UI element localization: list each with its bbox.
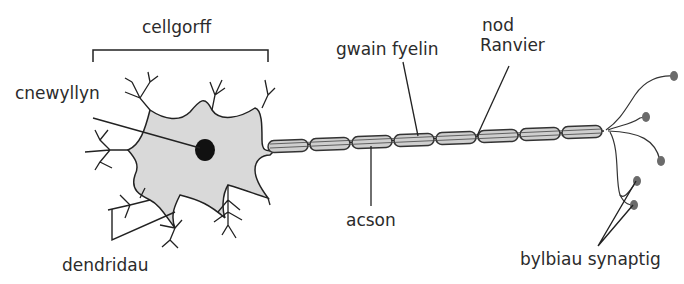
myelin-pointer xyxy=(403,62,418,136)
label-synaptic-bulbs: bylbiau synaptig xyxy=(520,250,661,269)
cell-body xyxy=(128,101,275,228)
label-axon: acson xyxy=(346,211,396,230)
label-myelin-sheath: gwain fyelin xyxy=(336,40,438,59)
axon-terminals xyxy=(606,76,673,205)
nucleus xyxy=(195,139,215,161)
label-cell-body: cellgorff xyxy=(142,18,211,37)
label-dendrites: dendridau xyxy=(62,256,149,275)
label-node-line2: Ranvier xyxy=(480,36,545,55)
label-node-line1: nod xyxy=(482,16,514,35)
synaptic-bulbs-pointer xyxy=(598,181,636,246)
node-pointer xyxy=(477,66,509,136)
cell-body-bracket xyxy=(93,50,268,62)
label-nucleus: cnewyllyn xyxy=(15,84,100,103)
